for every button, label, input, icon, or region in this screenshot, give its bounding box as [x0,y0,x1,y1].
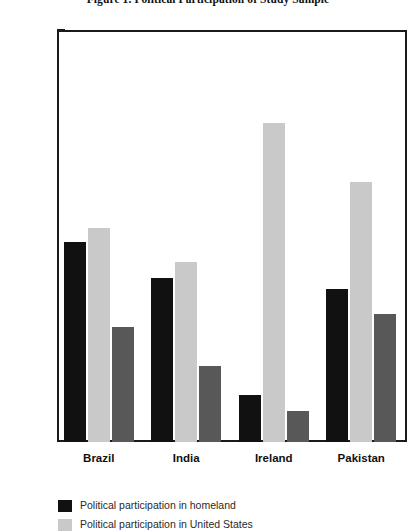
x-axis-label-brazil: Brazil [83,452,114,464]
bar-brazil-series-3 [112,327,134,442]
bar-ireland-series-2 [263,123,285,442]
bar-pakistan-series-3 [374,314,396,442]
bar-india-series-3 [199,366,221,442]
x-axis-label-ireland: Ireland [255,452,293,464]
legend-label: Political participation in homeland [80,499,236,512]
plot-area [57,30,407,442]
x-axis-label-pakistan: Pakistan [338,452,385,464]
bar-pakistan-series-1 [326,289,348,442]
chart-legend: Political participation in homelandPolit… [58,499,416,532]
legend-item[interactable]: Political participation in homeland [58,499,416,518]
bar-brazil-series-2 [88,228,110,442]
legend-swatch-icon [58,500,72,512]
bar-ireland-series-3 [287,411,309,442]
bar-india-series-2 [175,262,197,442]
figure-container: Figure 1. Political Participation of Stu… [0,0,416,532]
bar-brazil-series-1 [64,242,86,442]
bar-india-series-1 [151,278,173,442]
bar-pakistan-series-2 [350,182,372,442]
legend-swatch-icon [58,519,72,531]
page-title: Figure 1. Political Participation of Stu… [0,0,416,5]
legend-item[interactable]: Political participation in United States [58,518,416,532]
bar-ireland-series-1 [239,395,261,442]
legend-label: Political participation in United States [80,518,253,531]
x-axis-label-india: India [173,452,200,464]
